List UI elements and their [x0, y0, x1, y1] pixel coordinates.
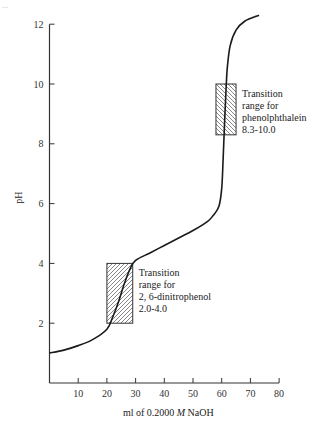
y-tick-label: 4 [39, 258, 44, 269]
annotation-text: 8.3-10.0 [242, 124, 275, 135]
annotation-text: range for [242, 100, 279, 111]
annotation-text: range for [139, 279, 176, 290]
y-tick-label: 8 [39, 138, 44, 149]
y-tick-label: 12 [34, 19, 44, 30]
page-mark: ... [2, 0, 9, 10]
axes: 246810121020304050607080pHml of 0.2000 M… [13, 19, 284, 418]
x-tick-label: 10 [73, 388, 83, 399]
x-axis-label: ml of 0.2000 M NaOH [123, 407, 214, 418]
y-tick-label: 2 [39, 318, 44, 329]
x-tick-label: 20 [102, 388, 112, 399]
x-tick-label: 50 [188, 388, 198, 399]
x-tick-label: 40 [159, 388, 169, 399]
annotation-text: 2, 6-dinitrophenol [139, 291, 211, 302]
annotation-text: Transition [242, 88, 283, 99]
y-tick-label: 6 [39, 198, 44, 209]
x-tick-label: 80 [274, 388, 284, 399]
y-tick-label: 10 [34, 79, 44, 90]
annotation-text: Transition [139, 267, 180, 278]
x-tick-label: 30 [131, 388, 141, 399]
x-tick-label: 70 [245, 388, 255, 399]
x-tick-label: 60 [217, 388, 227, 399]
titration-chart: 246810121020304050607080pHml of 0.2000 M… [0, 0, 322, 423]
annotation-text: phenolphthalein [242, 112, 306, 123]
y-axis-label: pH [13, 192, 24, 204]
annotation-text: 2.0-4.0 [139, 303, 167, 314]
